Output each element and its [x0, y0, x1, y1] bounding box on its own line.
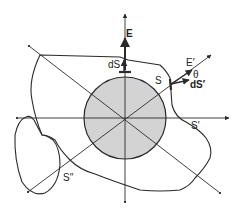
ds-prime-element [170, 79, 171, 90]
label-s-double-prime: S′′ [63, 172, 74, 183]
label-e-prime: E′ [186, 57, 195, 68]
label-ds-prime: dS′ [190, 79, 206, 90]
label-s: S [155, 75, 162, 86]
surface-s-double-prime [15, 116, 60, 193]
label-e: E [126, 28, 133, 39]
label-s-prime: S′ [191, 120, 200, 131]
gauss-law-diagram: E dS S E′ θ dS′ S′ S′′ [0, 0, 240, 214]
label-ds: dS [108, 59, 121, 70]
